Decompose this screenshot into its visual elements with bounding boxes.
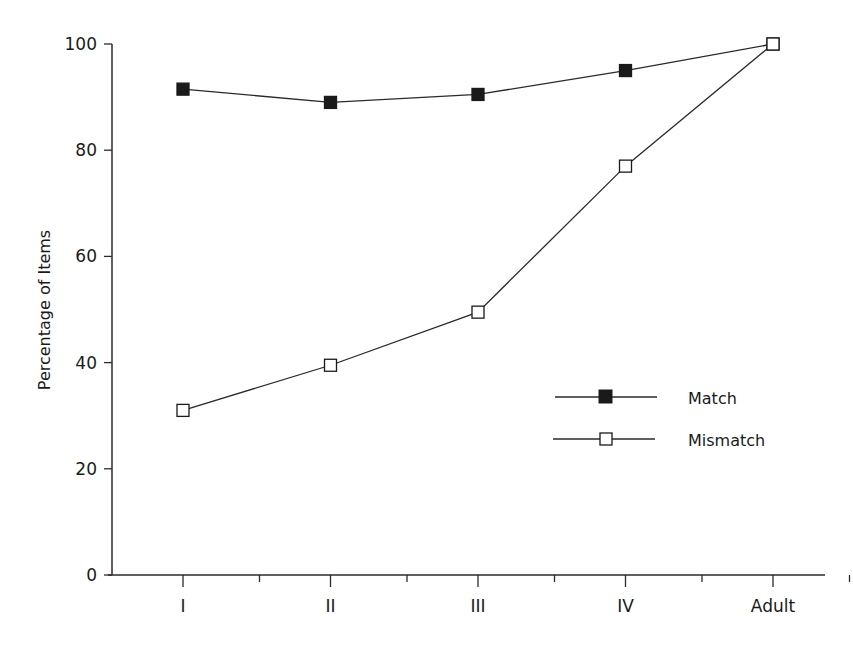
legend-label-mismatch: Mismatch	[688, 431, 765, 450]
legend-label-match: Match	[688, 389, 737, 408]
y-axis-title: Percentage of Items	[35, 230, 54, 390]
y-tick-label: 60	[75, 246, 97, 266]
open-square-marker-icon	[620, 160, 632, 172]
open-square-marker-icon	[325, 359, 337, 371]
x-tick-label: III	[470, 596, 485, 616]
x-tick-label: II	[325, 596, 335, 616]
open-square-marker-icon	[472, 306, 484, 318]
y-tick-label: 100	[65, 34, 97, 54]
filled-square-marker-icon	[177, 83, 189, 95]
open-square-marker-icon	[767, 38, 779, 50]
y-tick-label: 80	[75, 140, 97, 160]
filled-square-marker-icon	[325, 96, 337, 108]
x-tick-label: I	[180, 596, 185, 616]
legend-item-match: Match	[555, 389, 737, 408]
legend-item-mismatch: Mismatch	[553, 431, 765, 450]
series-layer	[177, 38, 779, 416]
y-ticks: 020406080100	[65, 34, 112, 585]
y-tick-label: 40	[75, 353, 97, 373]
series-match	[177, 38, 779, 108]
y-tick-label: 20	[75, 459, 97, 479]
x-ticks: IIIIIIIVAdult	[180, 575, 849, 616]
open-square-marker-icon	[177, 404, 189, 416]
x-tick-label: IV	[617, 596, 634, 616]
filled-square-marker-icon	[472, 88, 484, 100]
open-square-marker-icon	[600, 433, 612, 445]
filled-square-marker-icon	[599, 390, 612, 403]
filled-square-marker-icon	[620, 65, 632, 77]
x-tick-label: Adult	[751, 596, 796, 616]
y-tick-label: 0	[86, 565, 97, 585]
line-chart: 020406080100 IIIIIIIVAdult Percentage of…	[0, 0, 853, 647]
legend: Match Mismatch	[553, 389, 765, 450]
